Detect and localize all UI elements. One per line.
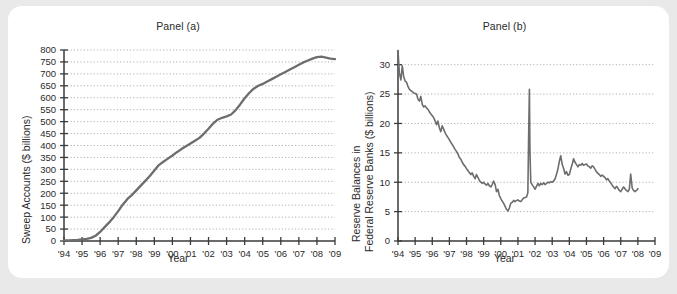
y-tick-label: 10 [379, 177, 390, 188]
x-tick-label: '03 [546, 248, 558, 259]
y-tick-label: 800 [40, 44, 56, 55]
x-tick-label: '08 [311, 248, 323, 259]
x-tick-label: '06 [275, 248, 287, 259]
figure-root: Panel (a) Sweep Accounts ($ billions) Ye… [0, 0, 677, 294]
y-tick-label: 550 [40, 104, 56, 115]
y-tick-label: 450 [40, 128, 56, 139]
x-tick-label: '03 [220, 248, 232, 259]
x-tick-label: '99 [477, 248, 489, 259]
y-tick-label: 50 [45, 223, 56, 234]
y-tick-label: 700 [40, 68, 56, 79]
y-tick-label: 0 [51, 235, 56, 246]
x-tick-label: '08 [632, 248, 644, 259]
x-tick-label: '07 [293, 248, 305, 259]
panel-a: Panel (a) Sweep Accounts ($ billions) Ye… [8, 6, 348, 278]
x-tick-label: '96 [426, 248, 438, 259]
x-tick-label: '05 [257, 248, 269, 259]
x-tick-label: '00 [495, 248, 507, 259]
x-tick-label: '97 [443, 248, 455, 259]
panel-a-plot: 0501001502002503003504004505005506006507… [8, 6, 348, 278]
x-tick-label: '04 [238, 248, 250, 259]
x-tick-label: '05 [580, 248, 592, 259]
y-tick-label: 750 [40, 56, 56, 67]
y-tick-label: 150 [40, 200, 56, 211]
x-tick-label: '00 [166, 248, 178, 259]
panel-b: Panel (b) Reserve Balances in Federal Re… [340, 6, 669, 278]
y-tick-label: 400 [40, 140, 56, 151]
x-tick-label: '99 [148, 248, 160, 259]
x-tick-label: '96 [94, 248, 106, 259]
y-tick-label: 0 [385, 235, 390, 246]
y-tick-label: 5 [385, 206, 390, 217]
x-tick-label: '95 [409, 248, 421, 259]
y-tick-label: 30 [379, 59, 390, 70]
y-tick-label: 100 [40, 212, 56, 223]
x-tick-label: '94 [392, 248, 404, 259]
x-tick-label: '98 [460, 248, 472, 259]
x-tick-label: '02 [202, 248, 214, 259]
y-tick-label: 600 [40, 92, 56, 103]
y-tick-label: 650 [40, 80, 56, 91]
x-tick-label: '02 [529, 248, 541, 259]
x-tick-label: '07 [615, 248, 627, 259]
x-tick-label: '06 [597, 248, 609, 259]
y-tick-label: 200 [40, 188, 56, 199]
y-tick-label: 300 [40, 164, 56, 175]
x-tick-label: '98 [130, 248, 142, 259]
x-tick-label: '01 [512, 248, 524, 259]
y-tick-label: 500 [40, 116, 56, 127]
y-tick-label: 350 [40, 152, 56, 163]
y-tick-label: 15 [379, 147, 390, 158]
y-tick-label: 250 [40, 176, 56, 187]
data-series-line [398, 51, 638, 211]
data-series-line [64, 57, 335, 241]
x-tick-label: '01 [184, 248, 196, 259]
panel-b-plot: 051015202530'94'95'96'97'98'99'00'01'02'… [340, 6, 669, 278]
x-tick-label: '97 [112, 248, 124, 259]
figure-card: Panel (a) Sweep Accounts ($ billions) Ye… [8, 6, 669, 278]
x-tick-label: '09 [649, 248, 661, 259]
y-tick-label: 20 [379, 118, 390, 129]
x-tick-label: '94 [58, 248, 70, 259]
x-tick-label: '95 [76, 248, 88, 259]
y-tick-label: 25 [379, 88, 390, 99]
x-tick-label: '04 [563, 248, 575, 259]
